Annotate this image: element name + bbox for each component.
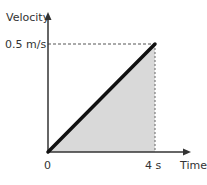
- y-tick-label: 0.5 m/s: [5, 39, 46, 50]
- x-origin-label: 0: [44, 160, 51, 171]
- x-axis-label: Time: [180, 160, 207, 171]
- y-axis-label: Velocity: [6, 12, 49, 23]
- x-tick-label: 4 s: [145, 160, 161, 171]
- velocity-time-graph: [0, 0, 207, 185]
- x-axis-arrow-icon: [183, 149, 191, 156]
